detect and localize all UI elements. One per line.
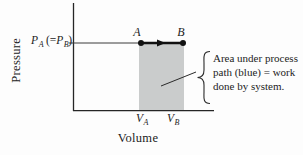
y-axis-label: Pressure [10,28,23,92]
point-a-label: A [132,26,142,38]
point-a-dot [138,40,144,46]
volume-b-label: VB [167,113,179,125]
x-axis-label: Volume [108,132,168,145]
point-b-dot [180,40,186,46]
annotation-line-3: done by system. [213,79,303,93]
pressure-a-symbol: PA [31,34,43,46]
work-annotation: Area under process path (blue) = work do… [213,51,303,93]
annotation-line-1: Area under process [213,51,303,65]
point-b-label: B [176,26,186,38]
pressure-b-symbol: PB [56,34,68,46]
work-area-shade [139,43,184,111]
volume-a-label: VA [136,113,148,125]
annotation-line-2: path (blue) = work [213,65,303,79]
pressure-level-label: PA (=PB) [24,35,72,47]
pressure-equal-open: (= [46,34,56,46]
pv-diagram: Pressure Volume PA (=PB) A B VA VB Area … [0,0,303,155]
annotation-brace [198,52,211,104]
